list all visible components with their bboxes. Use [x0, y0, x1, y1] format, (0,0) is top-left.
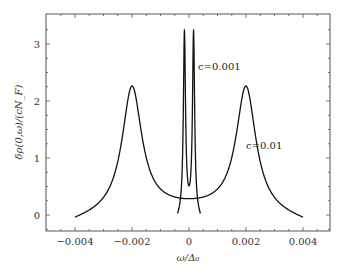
- y-tick-label: 3: [34, 39, 40, 50]
- y-tick-label: 1: [34, 153, 40, 164]
- x-tick-label: −0.004: [56, 236, 93, 247]
- x-tick-label: 0.004: [289, 236, 318, 247]
- x-tick-labels: −0.004−0.00200.0020.004: [56, 236, 317, 247]
- curve-c-0.01: [75, 86, 303, 217]
- curve-annotation: c=0.001: [198, 61, 241, 72]
- y-axis-label: δρ(0,ω)/(cN_F): [13, 84, 25, 159]
- x-tick-label: 0.002: [232, 236, 261, 247]
- y-tick-label: 0: [34, 210, 40, 221]
- curve-annotation: c=0.01: [246, 140, 282, 151]
- data-curves: [75, 30, 303, 217]
- x-tick-label: −0.002: [113, 236, 150, 247]
- chart: −0.004−0.00200.0020.004 0123 ω/Δ₀ δρ(0,ω…: [0, 0, 347, 269]
- x-axis-label: ω/Δ₀: [177, 252, 200, 263]
- x-tick-label: 0: [186, 236, 192, 247]
- y-tick-labels: 0123: [34, 39, 40, 221]
- curve-c-0.001: [178, 30, 201, 213]
- y-tick-label: 2: [34, 96, 40, 107]
